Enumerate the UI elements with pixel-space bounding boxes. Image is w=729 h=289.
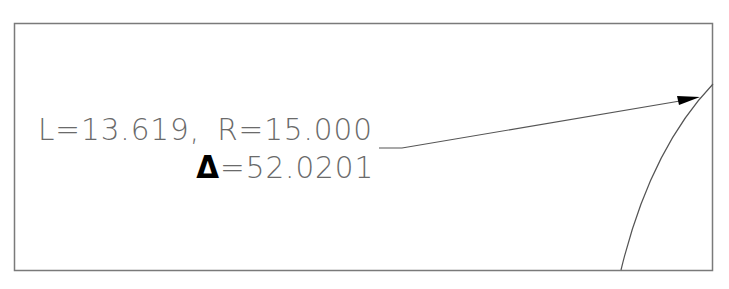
delta-symbol-icon: Δ (196, 149, 220, 185)
curve-arc (621, 84, 713, 270)
arc-length-text: L=13.619, (38, 111, 200, 147)
cad-drawing-canvas: L=13.619,R=15.000 Δ=52.0201 (0, 0, 729, 289)
delta-value-text: =52.0201 (220, 149, 374, 185)
central-angle-label: Δ=52.0201 (196, 152, 374, 183)
drawing-frame (15, 24, 713, 271)
radius-text: R=15.000 (217, 111, 373, 147)
curve-length-radius-label: L=13.619,R=15.000 (38, 114, 373, 145)
leader-line (379, 101, 680, 148)
